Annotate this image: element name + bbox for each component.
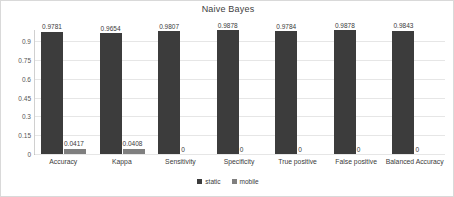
bar-mobile[interactable] [123, 149, 145, 154]
x-axis: AccuracyKappaSensitivitySpecificityTrue … [34, 158, 445, 172]
bar-static[interactable] [392, 31, 414, 154]
bar-value-label: 0.9654 [101, 25, 121, 32]
bar-static[interactable] [334, 30, 356, 154]
bar-value-label: 0.9784 [276, 23, 296, 30]
bar-mobile[interactable] [64, 149, 86, 154]
legend-label: static [205, 178, 220, 185]
bar-value-label: 0.0408 [123, 140, 143, 147]
bar-value-label: 0 [298, 146, 302, 153]
bar-static[interactable] [217, 30, 239, 154]
y-axis: 00.150.30.450.60.750.9 [1, 30, 31, 155]
chart-figure: Naive Bayes 00.150.30.450.60.750.9 0.978… [0, 0, 454, 197]
y-axis-tick-label: 0.9 [3, 38, 31, 45]
y-axis-tick-label: 0 [3, 151, 31, 158]
legend-swatch-icon [197, 179, 202, 184]
legend-item-static[interactable]: static [197, 178, 220, 185]
bar-group: 0.98430 [386, 30, 445, 154]
bar-group: 0.98070 [152, 30, 211, 154]
x-axis-tick-label: Sensitivity [165, 158, 196, 165]
plot-area: 0.97810.04170.96540.04080.980700.987800.… [34, 30, 445, 155]
x-axis-tick-label: False positive [335, 158, 377, 165]
bar-value-label: 0 [415, 146, 419, 153]
bar-group: 0.97840 [269, 30, 328, 154]
bar-value-label: 0.9807 [159, 23, 179, 30]
x-axis-tick-label: True positive [278, 158, 317, 165]
bar-group: 0.96540.0408 [94, 30, 153, 154]
bar-value-label: 0.9781 [42, 23, 62, 30]
gridline [35, 154, 445, 155]
y-axis-tick-label: 0.3 [3, 113, 31, 120]
legend-swatch-icon [232, 179, 237, 184]
x-axis-tick-label: Balanced Accuracy [386, 158, 444, 165]
y-axis-tick-label: 0.15 [3, 132, 31, 139]
chart-title: Naive Bayes [1, 4, 454, 14]
bar-value-label: 0.9878 [335, 22, 355, 29]
x-axis-tick-label: Accuracy [49, 158, 77, 165]
bar-static[interactable] [100, 33, 122, 154]
legend-item-mobile[interactable]: mobile [232, 178, 259, 185]
bar-value-label: 0.0417 [64, 140, 84, 147]
bar-group: 0.97810.0417 [35, 30, 94, 154]
bar-value-label: 0.9878 [218, 22, 238, 29]
x-axis-tick-label: Kappa [112, 158, 132, 165]
bar-static[interactable] [158, 31, 180, 154]
x-axis-tick-label: Specificity [224, 158, 255, 165]
chart-legend: staticmobile [1, 178, 454, 185]
bar-value-label: 0 [181, 146, 185, 153]
bar-group: 0.98780 [211, 30, 270, 154]
y-axis-tick-label: 0.75 [3, 57, 31, 64]
bar-value-label: 0.9843 [393, 22, 413, 29]
bar-group: 0.98780 [328, 30, 387, 154]
legend-label: mobile [240, 178, 259, 185]
bar-value-label: 0 [357, 146, 361, 153]
bar-static[interactable] [41, 32, 63, 155]
y-axis-tick-label: 0.6 [3, 75, 31, 82]
bar-value-label: 0 [240, 146, 244, 153]
y-axis-tick-label: 0.45 [3, 94, 31, 101]
bar-static[interactable] [275, 31, 297, 154]
